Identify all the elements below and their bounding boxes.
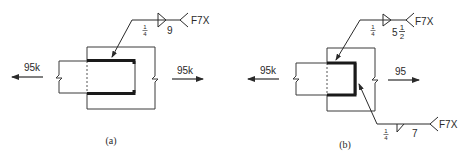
weld-diagram: F7X 1 4 9 95k 95k (a) F7X 1 4 5 [0, 0, 463, 155]
weld-size-num-top-b: 1 [371, 24, 375, 30]
weld-tail-icon [406, 13, 414, 27]
weld-size-den-top-b: 4 [371, 31, 375, 37]
weld-u-b [327, 63, 355, 95]
weld-length-a: 9 [167, 25, 173, 36]
panel-b: F7X 1 4 5 1 2 F7X 1 4 7 95k 95 (b) [248, 13, 458, 151]
weld-size-den-a: 4 [143, 31, 147, 37]
weld-process-top-b: F7X [415, 16, 434, 27]
weld-process-a: F7X [191, 15, 210, 26]
weld-size-num-a: 1 [143, 24, 147, 30]
weld-size-den-bottom-b: 4 [384, 135, 388, 141]
break-mark-icon [293, 76, 299, 82]
inner-member-a [59, 61, 135, 93]
fillet-weld-symbol-icon [397, 124, 404, 132]
caption-a: (a) [105, 135, 116, 147]
panel-a: F7X 1 4 9 95k 95k (a) [12, 13, 210, 147]
load-label-left-a: 95k [24, 62, 41, 73]
weld-length-den-top-b: 2 [400, 32, 405, 41]
weld-size-num-bottom-b: 1 [384, 128, 388, 134]
weld-tail-icon [180, 13, 188, 27]
weld-leader-top-b [336, 20, 360, 60]
weld-length-whole-top-b: 5 [392, 27, 398, 38]
outer-plate-b [327, 48, 375, 111]
break-mark-icon [56, 75, 62, 81]
weld-process-bottom-b: F7X [439, 119, 458, 130]
weld-leader-bottom-b [359, 84, 377, 124]
break-mark-icon [152, 76, 158, 82]
load-label-right-b: 95 [395, 66, 407, 77]
break-mark-icon [372, 77, 378, 83]
weld-length-num-top-b: 1 [400, 23, 405, 32]
load-label-left-b: 95k [260, 65, 277, 76]
weld-length-bottom-b: 7 [412, 128, 418, 139]
weld-tail-icon [430, 117, 438, 131]
outer-plate-a [87, 47, 155, 109]
load-label-right-a: 95k [177, 65, 194, 76]
weld-leader-a [112, 20, 132, 57]
weld-bottom-a [87, 90, 134, 94]
weld-top-a [87, 61, 134, 65]
caption-b: (b) [339, 139, 351, 151]
inner-member-b [296, 63, 356, 95]
